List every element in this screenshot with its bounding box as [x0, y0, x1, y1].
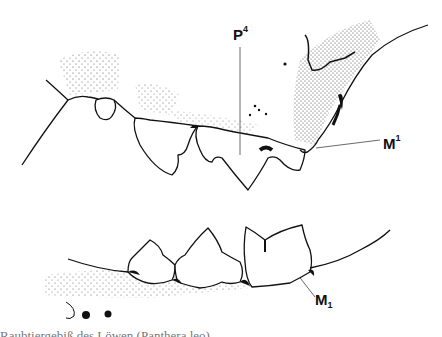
- figure-caption: Raubtiergebiß des Löwen (Panthera leo): [0, 327, 442, 337]
- label-m1-upper-sup: 1: [396, 133, 401, 143]
- mental-foramen-marks: [66, 302, 112, 319]
- upper-jaw-shading: [58, 20, 380, 145]
- label-m1-lower-sub: 1: [328, 300, 333, 310]
- label-p4-sup: 4: [243, 24, 248, 34]
- m1-upper-pointer-line: [316, 140, 380, 148]
- dentition-diagram: [0, 0, 442, 337]
- label-m1-upper-base: M: [383, 135, 396, 152]
- label-p4: P4: [233, 27, 248, 42]
- label-p4-base: P: [233, 26, 243, 43]
- label-m1-lower-base: M: [315, 291, 328, 308]
- label-m1-upper: M1: [383, 136, 401, 151]
- label-m1-lower: M1: [315, 292, 333, 307]
